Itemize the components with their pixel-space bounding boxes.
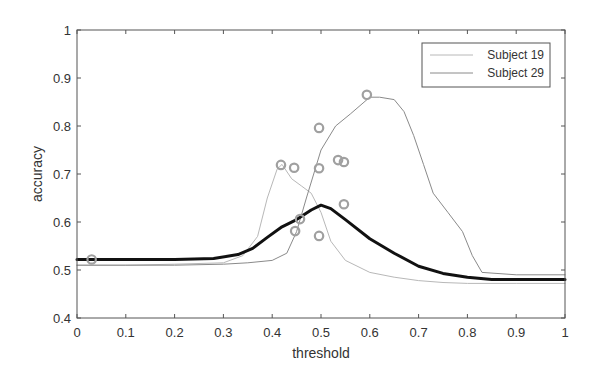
x-tick-label: 0.3: [214, 325, 232, 340]
scatter-point: [340, 200, 348, 208]
x-tick-label: 0.5: [312, 325, 330, 340]
x-axis-label: threshold: [292, 345, 350, 361]
scatter-point: [315, 124, 323, 132]
y-tick-label: 0.9: [53, 71, 71, 86]
accuracy-threshold-chart: 00.10.20.30.40.50.60.70.80.91 0.40.50.60…: [0, 0, 597, 379]
x-tick-label: 0.2: [166, 325, 184, 340]
x-tick-label: 0.1: [117, 325, 135, 340]
scatter-point: [290, 164, 298, 172]
y-tick-label: 0.5: [53, 263, 71, 278]
y-tick-label: 1: [64, 23, 71, 38]
y-axis-label: accuracy: [29, 146, 45, 202]
y-tick-label: 0.4: [53, 311, 71, 326]
y-tick-label: 0.8: [53, 119, 71, 134]
chart-canvas: 00.10.20.30.40.50.60.70.80.91 0.40.50.60…: [0, 0, 597, 379]
scatter-point: [363, 91, 371, 99]
x-tick-label: 0.8: [458, 325, 476, 340]
legend: Subject 19 Subject 29: [422, 43, 550, 87]
x-tick-label: 0.6: [361, 325, 379, 340]
x-tick-label: 0.9: [507, 325, 525, 340]
x-tick-label: 1: [561, 325, 568, 340]
y-tick-label: 0.7: [53, 167, 71, 182]
x-tick-label: 0.4: [263, 325, 281, 340]
series-line-mean: [77, 205, 565, 279]
x-tick-label: 0: [73, 325, 80, 340]
scatter-layer: [87, 91, 371, 264]
x-tick-label: 0.7: [410, 325, 428, 340]
y-tick-label: 0.6: [53, 215, 71, 230]
scatter-point: [315, 164, 323, 172]
scatter-point: [315, 232, 323, 240]
legend-label-subject-19: Subject 19: [487, 48, 544, 62]
legend-label-subject-29: Subject 29: [487, 66, 544, 80]
